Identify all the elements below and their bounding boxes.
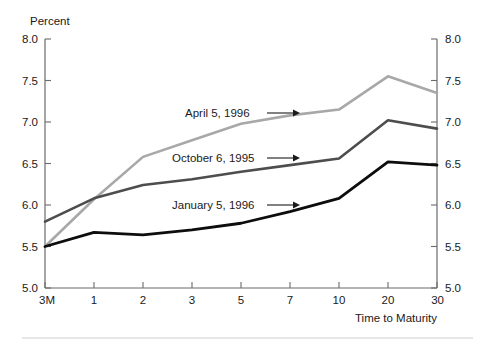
y-tick-label-left: 6.5: [22, 158, 38, 170]
y-tick-label-left: 5.5: [22, 241, 38, 253]
x-axis-ticks: 3M12357102030: [39, 282, 444, 306]
x-tick-label: 3M: [39, 294, 55, 306]
y-tick-label-left: 5.0: [22, 282, 38, 294]
x-tick-label: 5: [238, 294, 244, 306]
y-tick-label-right: 7.5: [445, 75, 461, 87]
x-tick-label: 10: [333, 294, 346, 306]
y-tick-label-right: 7.0: [445, 116, 461, 128]
y-tick-label-left: 7.5: [22, 75, 38, 87]
series-annotations: April 5, 1996October 6, 1995January 5, 1…: [172, 107, 300, 211]
y-tick-label-left: 8.0: [22, 33, 38, 45]
y-axis-ticks-right: 8.07.57.06.56.05.55.0: [431, 33, 461, 294]
series-annotation-arrow-head: [293, 154, 300, 161]
y-tick-label-right: 5.5: [445, 241, 461, 253]
series-annotation-label: January 5, 1996: [172, 199, 254, 211]
x-axis-title: Time to Maturity: [355, 312, 437, 324]
series-annotation-label: October 6, 1995: [172, 152, 254, 164]
y-tick-label-right: 6.5: [445, 158, 461, 170]
chart-figure: Percent 8.07.57.06.56.05.55.0 8.07.57.06…: [0, 0, 495, 344]
x-tick-label: 7: [287, 294, 293, 306]
y-tick-label-right: 5.0: [445, 282, 461, 294]
y-axis-title: Percent: [30, 15, 70, 27]
series-annotation-arrow-head: [293, 201, 300, 208]
y-tick-label-left: 6.0: [22, 199, 38, 211]
x-tick-label: 2: [140, 294, 146, 306]
y-tick-label-right: 6.0: [445, 199, 461, 211]
series-annotation-label: April 5, 1996: [185, 107, 250, 119]
x-tick-label: 30: [431, 294, 444, 306]
yield-curve-chart: Percent 8.07.57.06.56.05.55.0 8.07.57.06…: [0, 0, 495, 344]
x-tick-label: 20: [382, 294, 395, 306]
x-tick-label: 1: [91, 294, 97, 306]
x-tick-label: 3: [189, 294, 195, 306]
y-tick-label-right: 8.0: [445, 33, 461, 45]
y-tick-label-left: 7.0: [22, 116, 38, 128]
y-axis-ticks-left: 8.07.57.06.56.05.55.0: [22, 33, 51, 294]
